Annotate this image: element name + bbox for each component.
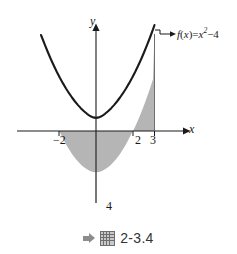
figure-container: y x −2 2 3 4 f(x)=x2−4 2-3.4	[0, 0, 237, 254]
parabola-curve	[41, 25, 155, 118]
function-tail: −4	[207, 28, 219, 40]
figure-caption: 2-3.4	[0, 222, 237, 254]
vertex-value-label: 4	[106, 200, 112, 212]
x-tick-label-3: 3	[150, 134, 156, 146]
x-tick-label-2: 2	[135, 134, 141, 146]
function-label-leader-arrowhead	[170, 31, 176, 37]
x-tick-label-minus2: −2	[53, 134, 66, 146]
figure-number: 2-3.4	[120, 230, 153, 246]
arrow-head	[89, 233, 95, 243]
right-arrow-bullet-icon	[83, 233, 95, 244]
y-axis-label: y	[90, 15, 95, 27]
x-axis-label: x	[189, 123, 194, 135]
function-expression-label: f(x)=x2−4	[177, 27, 219, 40]
function-label-leader-line	[155, 30, 171, 34]
plot-area: y x −2 2 3 4 f(x)=x2−4	[0, 0, 237, 222]
missing-glyph-box-icon	[100, 231, 115, 246]
shaded-region-above-axis	[133, 34, 155, 131]
